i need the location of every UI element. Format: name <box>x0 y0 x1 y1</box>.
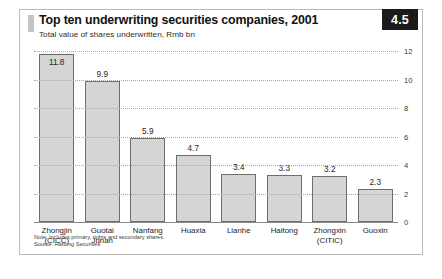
y-tick-label: 2 <box>404 189 408 198</box>
plot-area: 11.89.95.94.73.43.33.22.3 024681012 Zhon… <box>20 48 422 254</box>
figure-header: Top ten underwriting securities companie… <box>20 10 422 48</box>
y-tick-label: 8 <box>404 104 408 113</box>
y-tick-label: 6 <box>404 132 408 141</box>
figure-number-badge: 4.5 <box>382 9 418 30</box>
x-tick-label-line1: Lianhe <box>216 226 262 236</box>
y-tick-label: 12 <box>404 47 412 56</box>
bar-value-label: 11.8 <box>39 58 74 67</box>
bar-value-label: 3.2 <box>312 165 347 174</box>
y-tick-label: 10 <box>404 75 412 84</box>
x-tick-label: Huaxia <box>171 226 217 236</box>
figure-notes: Note: Includes primary, rights and secon… <box>34 234 164 248</box>
bar-value-label: 3.4 <box>221 163 256 172</box>
gridline <box>34 108 398 109</box>
bar-value-label: 5.9 <box>130 127 165 136</box>
figure-subtitle: Total value of shares underwritten, Rmb … <box>39 30 195 39</box>
gridline <box>34 165 398 166</box>
x-tick-label-line1: Zhongxin <box>307 226 353 236</box>
plot-canvas: 11.89.95.94.73.43.33.22.3 <box>34 51 398 222</box>
x-tick-label-line1: Guoxin <box>353 226 399 236</box>
x-tick-label-line1: Huaxia <box>171 226 217 236</box>
x-tick-label: Lianhe <box>216 226 262 236</box>
bar[interactable] <box>267 175 302 222</box>
bar[interactable] <box>221 174 256 222</box>
title-accent-bar <box>28 15 34 32</box>
bar[interactable] <box>130 138 165 222</box>
bar-value-label: 9.9 <box>85 70 120 79</box>
y-tick-label: 4 <box>404 161 408 170</box>
bar[interactable] <box>85 81 120 222</box>
y-tick-label: 0 <box>404 218 408 227</box>
bar-value-label: 4.7 <box>176 144 211 153</box>
figure-card: Top ten underwriting securities companie… <box>19 9 423 255</box>
x-tick-label: Zhongxin(CITIC) <box>307 226 353 245</box>
x-tick-label: Guoxin <box>353 226 399 236</box>
gridline <box>34 137 398 138</box>
axis-baseline <box>34 222 398 223</box>
gridline <box>34 80 398 81</box>
x-tick-label: Haitong <box>262 226 308 236</box>
gridline <box>34 51 398 52</box>
source-text: Source: Haitong Securities <box>34 241 164 248</box>
x-tick-label-line1: Haitong <box>262 226 308 236</box>
x-tick-label-line2: (CITIC) <box>307 236 353 246</box>
page-title: Top ten underwriting securities companie… <box>39 13 318 27</box>
gridline <box>34 194 398 195</box>
bar-value-label: 2.3 <box>358 178 393 187</box>
bar[interactable] <box>312 176 347 222</box>
note-text: Note: Includes primary, rights and secon… <box>34 234 164 241</box>
